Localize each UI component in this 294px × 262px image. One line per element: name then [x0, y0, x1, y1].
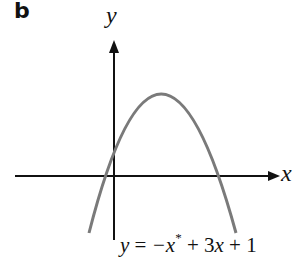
- x-axis: [15, 171, 280, 181]
- curve-equation: y = −x* + 3x + 1: [120, 232, 257, 258]
- y-axis-label: y: [106, 2, 117, 29]
- diagram-canvas: b y x y = −x* + 3x + 1: [0, 0, 294, 262]
- equation-x: x: [215, 233, 224, 257]
- graph: [0, 0, 294, 262]
- equation-power: *: [175, 230, 182, 245]
- equation-constant: + 1: [224, 233, 257, 257]
- parabola-curve: [89, 94, 236, 233]
- equation-equals: =: [129, 233, 151, 257]
- x-axis-label: x: [281, 160, 292, 187]
- equation-neg-x: −x: [152, 233, 176, 257]
- equation-term-3: + 3: [182, 233, 215, 257]
- equation-lhs: y: [120, 233, 129, 257]
- y-axis: [109, 40, 119, 240]
- x-axis-arrow-icon: [268, 171, 280, 181]
- y-axis-arrow-icon: [109, 40, 119, 53]
